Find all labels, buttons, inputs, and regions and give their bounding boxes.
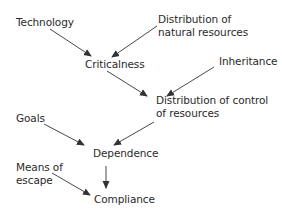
node-label: Compliance [94,193,155,205]
edge-criticalness-control [107,71,147,96]
node-technology: Technology [16,16,74,29]
node-label-line2: escape [16,174,63,187]
node-label-line2: of resources [156,107,268,120]
node-label: Goals [16,112,45,124]
node-inheritance: Inheritance [219,55,277,68]
node-label: Criticalness [85,58,145,70]
node-goals: Goals [16,112,45,125]
edge-natural-criticalness [112,26,157,57]
edge-technology-criticalness [50,29,91,56]
node-label-line1: Distribution of control [156,94,268,107]
node-label: Inheritance [219,55,277,67]
node-compliance: Compliance [94,193,155,206]
node-label-line1: Means of [16,161,63,174]
node-dependence: Dependence [93,147,158,160]
node-natural-resources: Distribution of natural resources [158,13,248,39]
edge-goals-dependence [44,124,84,145]
node-control-of-resources: Distribution of control of resources [156,94,268,120]
node-label: Dependence [93,147,158,159]
node-criticalness: Criticalness [85,58,145,71]
node-means-of-escape: Means of escape [16,161,63,187]
node-label-line1: Distribution of [158,13,248,26]
node-label-line2: natural resources [158,26,248,39]
node-label: Technology [16,16,74,28]
edge-inheritance-control [167,67,214,96]
edge-control-dependence [114,122,154,145]
